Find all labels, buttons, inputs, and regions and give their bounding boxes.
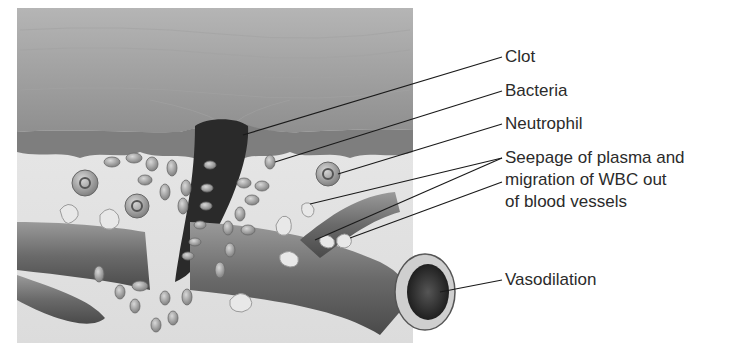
label-bacteria: Bacteria: [505, 81, 567, 101]
label-neutrophil: Neutrophil: [505, 114, 583, 134]
label-vasodilation: Vasodilation: [505, 270, 596, 290]
label-seepage-line-2: migration of WBC out: [505, 170, 667, 190]
inflammation-diagram: Clot Bacteria Neutrophil Seepage of plas…: [0, 0, 744, 357]
label-clot: Clot: [505, 47, 535, 67]
label-seepage-line-1: Seepage of plasma and: [505, 148, 685, 168]
label-seepage-line-3: of blood vessels: [505, 192, 627, 212]
epidermis-layer: [17, 8, 413, 132]
